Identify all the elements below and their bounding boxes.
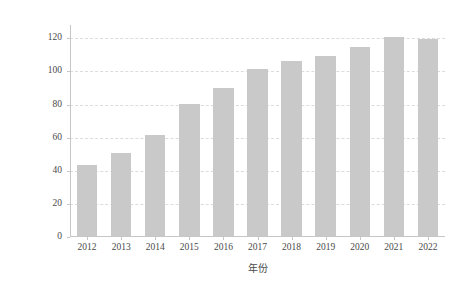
y-axis-tick-mark: [67, 171, 70, 172]
x-axis-tick-label: 2017: [248, 243, 267, 253]
y-axis-tick-label: 40: [53, 166, 63, 176]
x-axis-tick-label: 2016: [214, 243, 233, 253]
y-axis-title: 机动车保有量（万辆）: [16, 237, 32, 294]
y-axis-tick-label: 100: [48, 67, 62, 77]
x-axis-tick-mark: [292, 237, 293, 240]
y-axis-tick-mark: [67, 138, 70, 139]
y-axis-spine: [70, 25, 71, 237]
y-axis-tick-label: 60: [53, 133, 63, 143]
y-axis-tick-mark: [67, 105, 70, 106]
y-axis-tick-label: 120: [48, 34, 62, 44]
y-axis-tick-mark: [67, 204, 70, 205]
x-axis-tick-label: 2014: [146, 243, 165, 253]
y-axis-tick-labels: 020406080100120: [0, 25, 62, 237]
x-axis-tick-label: 2013: [112, 243, 131, 253]
x-axis-tick-mark: [326, 237, 327, 240]
x-axis-tick-mark: [258, 237, 259, 240]
bar-chart-figure: 020406080100120 机动车保有量（万辆） 2012201320142…: [0, 0, 453, 294]
x-axis-tick-mark: [189, 237, 190, 240]
x-axis-tick-mark: [360, 237, 361, 240]
y-axis-tick-mark: [67, 71, 70, 72]
y-axis-tick-mark: [67, 38, 70, 39]
x-axis-tick-label: 2015: [180, 243, 199, 253]
axis-spines: [70, 25, 445, 237]
x-axis-tick-mark: [428, 237, 429, 240]
y-axis-tick-label: 80: [53, 100, 63, 110]
x-axis-tick-mark: [223, 237, 224, 240]
x-axis-tick-label: 2020: [350, 243, 369, 253]
x-axis-tick-mark: [87, 237, 88, 240]
plot-area: [70, 25, 445, 237]
x-axis-tick-label: 2022: [418, 243, 437, 253]
x-axis-tick-mark: [394, 237, 395, 240]
x-axis-title: 年份: [70, 262, 445, 276]
x-axis-tick-mark: [155, 237, 156, 240]
x-axis-tick-label: 2012: [78, 243, 97, 253]
y-axis-tick-label: 20: [53, 199, 63, 209]
x-axis-tick-labels: 2012201320142015201620172018201920202021…: [70, 243, 445, 257]
x-axis-tick-label: 2019: [316, 243, 335, 253]
x-axis-tick-label: 2021: [384, 243, 403, 253]
y-axis-tick-mark: [67, 237, 70, 238]
x-axis-tick-mark: [121, 237, 122, 240]
x-axis-tick-label: 2018: [282, 243, 301, 253]
y-axis-tick-label: 0: [57, 232, 62, 242]
